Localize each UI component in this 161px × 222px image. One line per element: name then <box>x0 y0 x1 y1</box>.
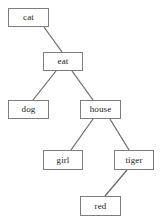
tree-diagram: cateatdoghousegirltigerred <box>0 0 161 222</box>
tree-edge-n4-n5 <box>71 119 93 150</box>
tree-node-house[interactable]: house <box>80 100 121 119</box>
tree-node-eat[interactable]: eat <box>43 52 83 71</box>
tree-node-label: red <box>95 202 107 211</box>
tree-edge-n6-n7 <box>105 170 127 196</box>
tree-edge-n2-n4 <box>72 71 93 100</box>
tree-node-dog[interactable]: dog <box>8 100 49 119</box>
tree-node-label: cat <box>23 13 34 22</box>
tree-node-label: eat <box>58 57 69 66</box>
tree-edge-n2-n3 <box>33 71 56 100</box>
tree-node-label: dog <box>22 105 36 114</box>
tree-node-tiger[interactable]: tiger <box>114 150 154 170</box>
tree-node-label: house <box>90 105 112 114</box>
tree-node-label: tiger <box>126 156 143 165</box>
tree-node-girl[interactable]: girl <box>43 150 83 170</box>
tree-node-cat[interactable]: cat <box>8 8 49 27</box>
tree-node-red[interactable]: red <box>80 196 121 216</box>
tree-node-label: girl <box>57 156 70 165</box>
tree-edge-n1-n2 <box>44 27 62 52</box>
tree-edge-n4-n6 <box>110 119 129 150</box>
